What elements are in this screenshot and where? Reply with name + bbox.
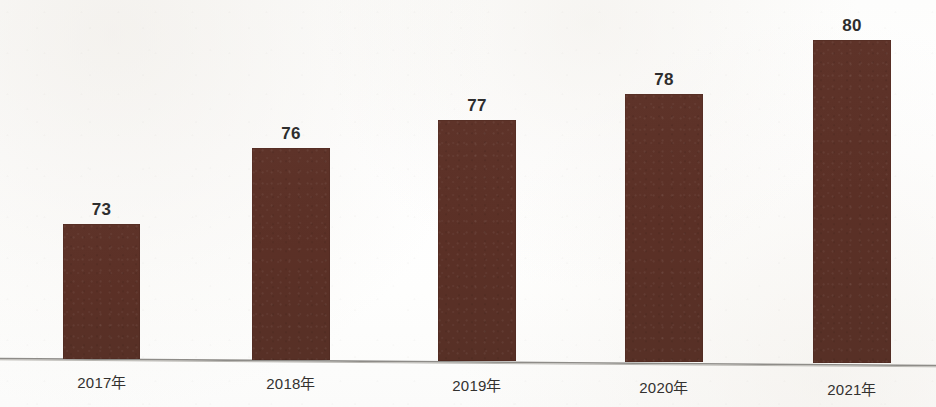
category-label-2019: 2019年 — [433, 378, 521, 393]
category-axis: 2017年 2018年 2019年 2020年 2021年 — [0, 373, 936, 407]
bar-chart-figure: 73 76 77 78 80 2017年 2018年 2019年 2020年 2… — [0, 0, 936, 407]
bar-group-1: 76 — [252, 0, 330, 365]
category-label-2018: 2018年 — [247, 376, 335, 391]
category-label-2020: 2020年 — [620, 380, 708, 395]
bar-value-label-1: 76 — [252, 125, 330, 142]
bar-value-label-0: 73 — [63, 201, 140, 218]
bar-rect-4[interactable] — [813, 40, 891, 363]
bar-rect-2[interactable] — [438, 120, 516, 361]
bar-group-0: 73 — [63, 0, 140, 365]
category-label-2017: 2017年 — [58, 375, 146, 390]
bar-rect-3[interactable] — [625, 94, 703, 362]
bar-rect-1[interactable] — [252, 148, 330, 360]
bar-value-label-4: 80 — [813, 17, 891, 34]
bar-value-label-2: 77 — [438, 97, 516, 114]
bar-value-label-3: 78 — [625, 71, 703, 88]
category-label-2021: 2021年 — [808, 382, 896, 397]
bar-rect-0[interactable] — [63, 224, 140, 359]
plot-area: 73 76 77 78 80 — [0, 0, 936, 365]
bar-group-4: 80 — [813, 0, 891, 365]
bar-group-2: 77 — [438, 0, 516, 365]
bar-group-3: 78 — [625, 0, 703, 365]
